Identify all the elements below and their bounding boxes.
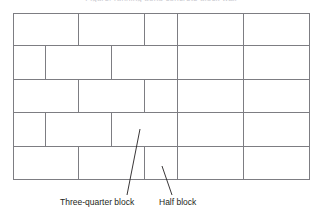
block-full — [13, 147, 79, 180]
course-2 — [13, 46, 310, 79]
block-half — [244, 113, 310, 146]
block-full — [178, 147, 244, 180]
block-full — [178, 46, 244, 79]
block-half — [145, 147, 178, 180]
block-full — [178, 80, 244, 113]
block-full — [79, 147, 145, 180]
block-full — [46, 46, 112, 79]
block-wall-figure: Figure: running bond concrete block wall — [0, 0, 322, 223]
clipped-figure-title: Figure: running bond concrete block wall — [0, 0, 322, 2]
block-full — [46, 113, 112, 146]
course-3 — [13, 80, 310, 113]
block-full — [79, 13, 145, 46]
block-half — [145, 80, 178, 113]
block-half — [244, 46, 310, 79]
block-full — [13, 13, 79, 46]
block-full — [13, 80, 79, 113]
brick-wall-diagram — [13, 13, 310, 180]
block-half — [13, 46, 46, 79]
block-full — [244, 13, 310, 46]
block-full — [112, 46, 178, 79]
block-full — [244, 80, 310, 113]
course-4 — [13, 113, 310, 146]
course-5 — [13, 147, 310, 180]
block-full — [244, 147, 310, 180]
block-three-quarter — [112, 113, 178, 146]
block-half — [145, 13, 178, 46]
callout-label-half-block: Half block — [159, 198, 196, 207]
block-full — [79, 80, 145, 113]
course-1 — [13, 13, 310, 46]
block-half — [13, 113, 46, 146]
callout-label-three-quarter-block: Three-quarter block — [60, 198, 134, 207]
block-full — [178, 13, 244, 46]
block-full — [178, 113, 244, 146]
